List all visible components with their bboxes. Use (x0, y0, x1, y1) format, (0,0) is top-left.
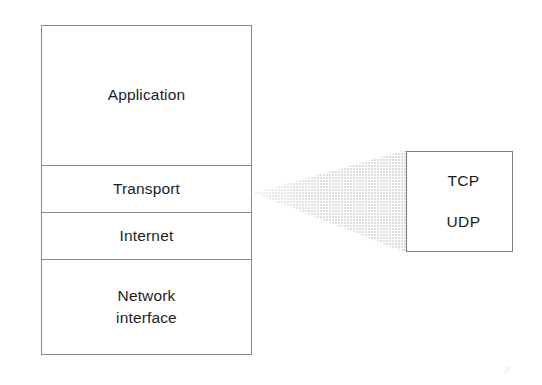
diagram-canvas: Application Transport Internet Network i… (0, 0, 542, 385)
protocol-udp-label: UDP (403, 213, 516, 231)
stack-layer-application-label: Application (108, 84, 185, 106)
stack-layer-network-interface-label-line1: Network (118, 287, 176, 304)
stack-layer-network-interface: Network interface (42, 259, 251, 354)
transport-protocols-box: TCP UDP (406, 151, 513, 252)
stack-layer-internet: Internet (42, 212, 251, 259)
stack-layer-transport: Transport (42, 165, 251, 212)
stack-layer-network-interface-label-line2: interface (116, 307, 177, 329)
stack-layer-internet-label: Internet (120, 225, 174, 247)
protocol-stack: Application Transport Internet Network i… (41, 25, 252, 355)
protocol-tcp-label: TCP (403, 172, 516, 190)
stack-layer-transport-label: Transport (113, 178, 180, 200)
magnifier-wedge-icon (254, 150, 407, 253)
stack-layer-application: Application (42, 26, 251, 165)
stack-layer-network-interface-label: Network interface (116, 285, 177, 330)
scan-artifact: // (505, 366, 513, 375)
